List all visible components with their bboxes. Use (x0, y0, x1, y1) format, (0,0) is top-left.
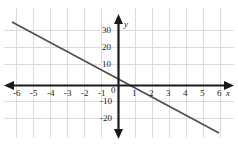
x-tick-label: 3 (166, 89, 171, 98)
x-tick-label: -4 (47, 89, 55, 98)
x-tick-label: 1 (132, 89, 137, 98)
x-tick-label: -6 (13, 89, 21, 98)
x-axis-label: x (226, 89, 230, 98)
x-tick-label: 2 (149, 89, 154, 98)
y-axis-down-arrow-icon (114, 129, 123, 139)
x-tick-label: -5 (30, 89, 38, 98)
y-axis-up-arrow-icon (114, 14, 123, 24)
graph-figure: -6 -5 -4 -3 -2 -1 0 1 2 3 4 5 6 30 20 10… (0, 0, 238, 144)
y-tick-label: -10 (100, 97, 112, 106)
plotted-line (12, 22, 219, 133)
x-tick-label: 4 (183, 89, 188, 98)
x-tick-label: -2 (81, 89, 89, 98)
coordinate-plane (0, 0, 238, 144)
y-tick-label: 30 (102, 26, 111, 35)
x-tick-label: 5 (200, 89, 205, 98)
x-tick-label: -3 (64, 89, 72, 98)
x-tick-label: 6 (217, 89, 222, 98)
y-tick-label: -20 (100, 114, 112, 123)
y-tick-label: 10 (102, 60, 111, 69)
x-tick-label-origin: 0 (111, 86, 116, 95)
y-tick-label: 20 (102, 43, 111, 52)
y-axis-label: y (124, 20, 128, 29)
